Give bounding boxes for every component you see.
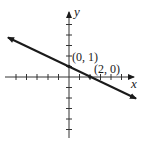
- point-2-0: [88, 75, 92, 79]
- point-0-1: [67, 65, 71, 69]
- point-label-2-0: (2, 0): [94, 62, 120, 76]
- x-axis-label: x: [130, 76, 137, 91]
- y-axis-label: y: [72, 4, 80, 19]
- graph: y x (0, 1) (2, 0): [0, 0, 144, 143]
